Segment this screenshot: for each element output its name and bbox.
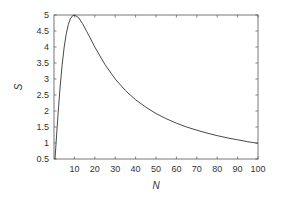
- x-tick-label: 10: [69, 164, 79, 174]
- x-axis-label: N: [152, 180, 160, 191]
- x-tick-label: 70: [192, 164, 202, 174]
- x-tick-label: 100: [250, 164, 265, 174]
- series-line: [55, 15, 258, 159]
- x-tick-label: 60: [171, 164, 181, 174]
- y-tick-label: 2: [44, 106, 49, 116]
- y-tick-label: 1: [44, 138, 49, 148]
- y-tick-label: 5: [44, 10, 49, 20]
- y-tick-label: 3: [44, 74, 49, 84]
- y-tick-label: 4.5: [36, 26, 49, 36]
- y-tick-label: 3.5: [36, 58, 49, 68]
- chart: 1020304050607080901000.511.522.533.544.5…: [0, 0, 283, 208]
- x-tick-label: 20: [90, 164, 100, 174]
- x-tick-label: 40: [131, 164, 141, 174]
- plot-area: 1020304050607080901000.511.522.533.544.5…: [13, 10, 266, 191]
- x-tick-label: 50: [151, 164, 161, 174]
- y-tick-label: 0.5: [36, 154, 49, 164]
- plot-frame: [54, 15, 258, 159]
- x-tick-label: 30: [110, 164, 120, 174]
- x-tick-label: 90: [233, 164, 243, 174]
- y-tick-label: 2.5: [36, 90, 49, 100]
- y-tick-label: 4: [44, 42, 49, 52]
- y-axis-label: S: [13, 83, 24, 90]
- y-tick-label: 1.5: [36, 122, 49, 132]
- x-tick-label: 80: [212, 164, 222, 174]
